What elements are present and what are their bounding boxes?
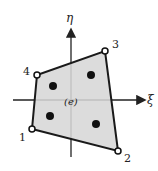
eta-label: η [66,11,74,25]
node-3 [102,48,108,54]
node-label-4: 4 [23,65,30,78]
element-label: (e) [64,96,78,107]
quadrilateral-element-diagram: η ξ (e) 1 2 3 4 [0,0,158,171]
xi-label: ξ [147,93,155,107]
node-label-1: 1 [19,131,26,144]
node-4 [34,72,40,78]
node-2 [115,148,121,154]
node-1 [29,126,35,132]
node-label-2: 2 [124,152,131,165]
node-label-3: 3 [112,38,119,51]
